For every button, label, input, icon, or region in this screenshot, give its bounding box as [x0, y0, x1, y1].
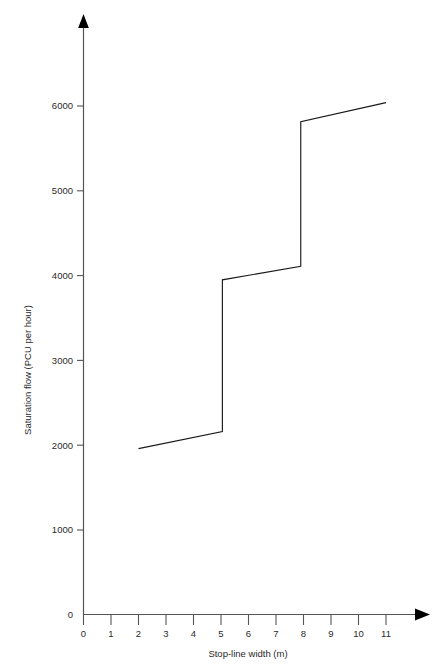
x-tick-label-5: 5	[218, 628, 223, 639]
x-tick-label-0: 0	[81, 628, 86, 639]
x-tick-label-7: 7	[273, 628, 278, 639]
x-tick-label-4: 4	[191, 628, 196, 639]
x-tick-label-11: 11	[381, 628, 391, 639]
x-tick-label-2: 2	[136, 628, 141, 639]
x-tick-label-10: 10	[353, 628, 364, 639]
x-tick-label-8: 8	[301, 628, 306, 639]
x-axis-title: Stop-line width (m)	[208, 648, 287, 659]
x-tick-label-6: 6	[246, 628, 251, 639]
y-tick-label-2000: 2000	[52, 440, 73, 451]
x-tick-label-9: 9	[328, 628, 333, 639]
y-tick-label-5000: 5000	[52, 185, 73, 196]
y-tick-label-4000: 4000	[52, 270, 73, 281]
chart-figure: 6000 5000 4000 3000 2000 1000 0 0 1	[0, 0, 443, 666]
saturation-flow-line-chart: 6000 5000 4000 3000 2000 1000 0 0 1	[0, 0, 443, 666]
y-tick-label-6000: 6000	[52, 100, 73, 111]
y-tick-label-0: 0	[68, 609, 73, 620]
x-tick-label-3: 3	[163, 628, 168, 639]
y-tick-label-3000: 3000	[52, 355, 73, 366]
y-axis-title: Saturation flow (PCU per hour)	[22, 305, 33, 435]
y-tick-label-1000: 1000	[52, 524, 73, 535]
x-tick-label-1: 1	[108, 628, 113, 639]
